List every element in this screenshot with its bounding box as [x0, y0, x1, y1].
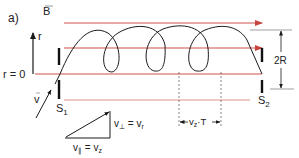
- svg-text:B: B: [43, 5, 50, 17]
- svg-text:v: v: [34, 93, 40, 105]
- pitch-label: vz·T: [189, 116, 206, 128]
- helix-diagram: a) B r r = 0 S1 S2 v vz·T 2R: [0, 0, 299, 158]
- diameter-label: 2R: [274, 55, 287, 66]
- velocity-triangle: [65, 111, 110, 138]
- velocity-label: v: [34, 93, 40, 105]
- magnetic-field-label: B: [43, 5, 53, 17]
- parallel-velocity-label: v∥ = vz: [73, 142, 102, 155]
- panel-label: a): [8, 11, 19, 25]
- slit-s1-label: S1: [56, 102, 68, 117]
- origin-label: r = 0: [3, 68, 25, 80]
- r-axis-label: r: [38, 30, 42, 42]
- slit-s2-label: S2: [258, 94, 270, 109]
- perp-velocity-label: v⊥ = vr: [114, 118, 144, 130]
- helix-trajectory: [55, 26, 262, 84]
